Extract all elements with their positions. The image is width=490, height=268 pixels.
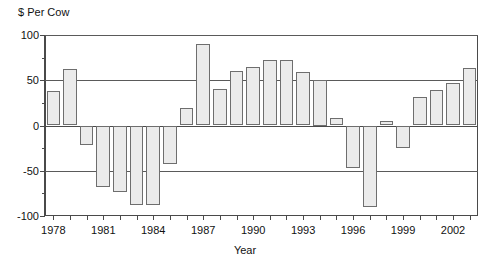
- bar: [146, 126, 160, 206]
- x-tick-mark: [303, 216, 304, 220]
- x-tick-mark: [403, 216, 404, 220]
- x-tick-mark: [170, 216, 171, 220]
- x-tick-mark: [103, 216, 104, 220]
- bar: [413, 97, 427, 125]
- bar: [196, 44, 210, 125]
- x-tick-mark: [320, 216, 321, 220]
- x-tick-label: 1990: [233, 225, 273, 236]
- chart-figure: $ Per Cow -100-50050100 1978198119841987…: [0, 0, 490, 268]
- bar: [63, 69, 77, 125]
- x-tick-mark: [470, 216, 471, 220]
- x-tick-label: 1999: [383, 225, 423, 236]
- x-tick-label: 1987: [183, 225, 223, 236]
- x-tick-mark: [237, 216, 238, 220]
- bar: [363, 126, 377, 207]
- bar: [80, 126, 94, 145]
- x-tick-mark: [153, 216, 154, 220]
- x-tick-mark: [253, 216, 254, 220]
- x-tick-mark: [353, 216, 354, 220]
- y-tick-label: 100: [0, 30, 39, 41]
- bar: [346, 126, 360, 169]
- bar: [180, 108, 194, 125]
- plot-area: [45, 35, 478, 216]
- bar: [230, 71, 244, 125]
- y-tick-label: -100: [0, 211, 39, 222]
- x-tick-mark: [336, 216, 337, 220]
- bar: [280, 60, 294, 125]
- bar: [213, 89, 227, 125]
- x-axis-label: Year: [0, 244, 490, 257]
- y-tick-label: -50: [0, 166, 39, 177]
- x-tick-mark: [187, 216, 188, 220]
- x-tick-mark: [386, 216, 387, 220]
- x-tick-mark: [87, 216, 88, 220]
- bar: [113, 126, 127, 193]
- x-tick-mark: [420, 216, 421, 220]
- x-tick-label: 1996: [333, 225, 373, 236]
- bar: [463, 68, 477, 126]
- x-tick-mark: [370, 216, 371, 220]
- bar: [263, 60, 277, 125]
- bar: [296, 72, 310, 125]
- gridline: [45, 80, 478, 81]
- x-tick-mark: [270, 216, 271, 220]
- bar: [313, 80, 327, 125]
- x-tick-mark: [436, 216, 437, 220]
- x-tick-mark: [137, 216, 138, 220]
- bar: [380, 121, 394, 126]
- x-tick-label: 1978: [33, 225, 73, 236]
- y-axis-spine: [44, 35, 45, 216]
- bar: [130, 126, 144, 206]
- y-tick-label: 50: [0, 75, 39, 86]
- bar: [47, 91, 61, 125]
- x-tick-label: 1993: [283, 225, 323, 236]
- bar: [96, 126, 110, 188]
- bar: [430, 90, 444, 125]
- bar: [246, 67, 260, 126]
- bar: [446, 83, 460, 126]
- y-tick-label: 0: [0, 121, 39, 132]
- bar: [396, 126, 410, 149]
- y-tick-mark: [40, 216, 45, 217]
- bar: [163, 126, 177, 165]
- gridline: [45, 35, 478, 36]
- bar: [330, 118, 344, 125]
- x-tick-mark: [70, 216, 71, 220]
- x-tick-label: 2002: [433, 225, 473, 236]
- x-tick-mark: [53, 216, 54, 220]
- x-tick-mark: [203, 216, 204, 220]
- x-tick-label: 1981: [83, 225, 123, 236]
- x-tick-mark: [286, 216, 287, 220]
- x-tick-mark: [220, 216, 221, 220]
- x-tick-mark: [120, 216, 121, 220]
- x-tick-label: 1984: [133, 225, 173, 236]
- x-tick-mark: [453, 216, 454, 220]
